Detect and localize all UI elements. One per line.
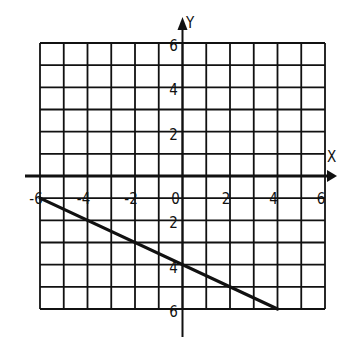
x-tick-label: -6: [29, 190, 42, 208]
x-tick-label: 4: [269, 190, 278, 208]
y-tick-label: 2: [169, 126, 178, 144]
y-tick-label: 6: [169, 303, 178, 321]
x-tick-label: 0: [171, 190, 180, 208]
x-axis-label: X: [327, 148, 336, 166]
x-axis-arrow-icon: [327, 170, 337, 182]
x-tick-label: 2: [222, 190, 231, 208]
x-tick-label: -4: [77, 190, 90, 208]
tick-labels: -6-4-20246642246: [29, 37, 325, 321]
y-axis-label: Y: [185, 14, 195, 32]
x-tick-label: 6: [317, 190, 326, 208]
y-tick-label: 4: [169, 81, 178, 99]
x-tick-label: -2: [124, 190, 137, 208]
y-tick-label: 2: [169, 214, 178, 232]
coordinate-plane: -6-4-20246642246 X Y: [0, 0, 347, 348]
y-tick-label: 4: [169, 259, 178, 277]
y-tick-label: 6: [169, 37, 178, 55]
